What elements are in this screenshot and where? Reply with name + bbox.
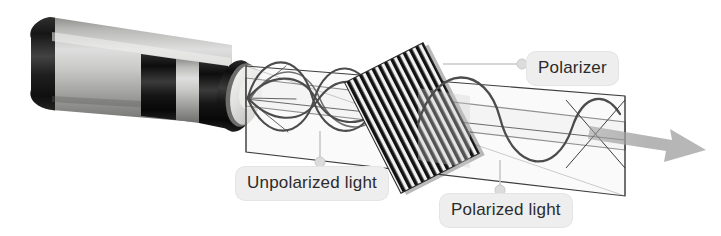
connector-dot-polarizer bbox=[517, 59, 527, 69]
callout-unpolarized-light: Unpolarized light bbox=[236, 167, 388, 200]
callout-polarized-light: Polarized light bbox=[440, 194, 572, 227]
flashlight bbox=[30, 17, 265, 134]
diagram-canvas bbox=[0, 0, 721, 236]
flashlight-band-middle bbox=[141, 54, 176, 120]
polarizer-transmission-glow bbox=[418, 88, 470, 168]
flashlight-collar bbox=[176, 59, 199, 123]
callout-polarizer: Polarizer bbox=[527, 52, 618, 85]
polarization-diagram: Polarizer Unpolarized light Polarized li… bbox=[0, 0, 721, 236]
connector-dot-unpolarized bbox=[315, 157, 325, 167]
